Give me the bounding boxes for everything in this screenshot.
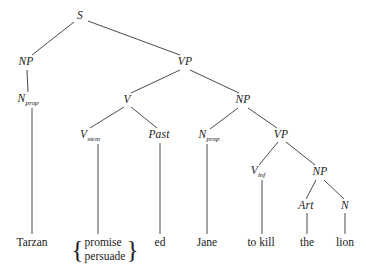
node-label: S bbox=[77, 9, 83, 21]
brace-items: promise persuade bbox=[84, 236, 127, 263]
brace-item-1: persuade bbox=[85, 250, 126, 264]
tree-node-np2: NP bbox=[235, 94, 250, 106]
node-label: Past bbox=[148, 128, 169, 140]
leaf-promise-persuade: { promise persuade } bbox=[72, 236, 139, 263]
tree-edge-v-to-past bbox=[131, 107, 157, 128]
leaf-ed: ed bbox=[155, 237, 166, 249]
tree-edge-np1-to-nprop1 bbox=[27, 70, 28, 92]
tree-node-nprop1: Nprop bbox=[18, 93, 39, 107]
tree-edge-s-to-np1 bbox=[32, 22, 74, 55]
tree-node-nprop2: Nprop bbox=[199, 129, 220, 143]
tree-edge-np2-to-vp2 bbox=[248, 108, 277, 128]
brace-close-icon: } bbox=[126, 239, 138, 262]
leaf-lion: lion bbox=[336, 237, 354, 249]
node-label: N bbox=[199, 128, 207, 140]
tree-edge-v-to-vstem bbox=[90, 107, 124, 128]
tree-node-vp1: VP bbox=[178, 56, 192, 68]
node-subscript: prop bbox=[206, 135, 219, 143]
leaf-jane: Jane bbox=[197, 237, 217, 249]
tree-edge-vp2-to-vinf bbox=[259, 142, 278, 165]
edge-group bbox=[27, 21, 345, 234]
tree-edge-np3-to-n bbox=[324, 180, 344, 199]
node-label: NP bbox=[235, 93, 250, 105]
tree-node-vinf: Vinf bbox=[251, 165, 266, 179]
tree-node-past: Past bbox=[148, 129, 169, 141]
tree-edge-vp1-to-v bbox=[131, 70, 180, 93]
tree-node-v: V bbox=[123, 94, 130, 106]
tree-node-s: S bbox=[77, 10, 83, 22]
tree-node-vstem: Vstem bbox=[80, 129, 100, 143]
tree-node-np3: NP bbox=[312, 166, 327, 178]
node-label: N bbox=[341, 199, 349, 211]
brace-open-icon: { bbox=[72, 239, 84, 262]
tree-edge-vp1-to-np2 bbox=[190, 70, 239, 93]
leaf-tarzan: Tarzan bbox=[16, 237, 47, 249]
tree-node-np1: NP bbox=[18, 56, 33, 68]
tree-node-art: Art bbox=[298, 200, 313, 212]
node-subscript: stem bbox=[87, 135, 100, 143]
syntax-tree-diagram: SNPVPNpropVNPVstemPastNpropVPVinfNPArtN … bbox=[0, 0, 366, 275]
tree-edge-s-to-vp1 bbox=[88, 21, 180, 55]
node-subscript: inf bbox=[258, 171, 265, 179]
brace-item-0: promise bbox=[85, 236, 122, 250]
node-label: VP bbox=[178, 55, 192, 67]
node-label: N bbox=[18, 92, 26, 104]
tree-edge-np2-to-nprop2 bbox=[210, 108, 238, 129]
tree-edge-np3-to-art bbox=[306, 180, 316, 199]
node-label: Art bbox=[298, 199, 313, 211]
tree-edge-vp2-to-np3 bbox=[286, 142, 315, 165]
node-label: VP bbox=[274, 128, 288, 140]
node-label: V bbox=[123, 93, 130, 105]
node-label: NP bbox=[312, 165, 327, 177]
node-label: NP bbox=[18, 55, 33, 67]
node-subscript: prop bbox=[25, 99, 38, 107]
tree-node-vp2: VP bbox=[274, 129, 288, 141]
tree-edges-layer bbox=[0, 0, 366, 275]
leaf-the: the bbox=[300, 237, 314, 249]
tree-node-n: N bbox=[341, 200, 349, 212]
leaf-to-kill: to kill bbox=[247, 237, 274, 249]
